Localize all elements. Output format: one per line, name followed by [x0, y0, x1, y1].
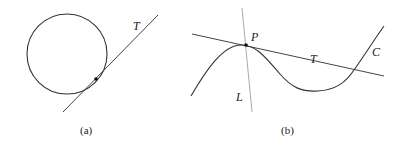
tangent-point-a: [94, 77, 98, 81]
figure-b: P T C L (b): [191, 8, 384, 137]
circle: [27, 14, 107, 94]
label-T-a: T: [133, 19, 141, 33]
figure-canvas: T (a) P T C L (b): [0, 0, 402, 144]
label-L: L: [235, 90, 243, 104]
label-C: C: [372, 45, 381, 59]
curve-C: [191, 26, 384, 96]
figure-a: T (a): [27, 14, 158, 137]
caption-a: (a): [80, 124, 93, 137]
line-L: [242, 8, 252, 112]
label-T-b: T: [310, 52, 318, 66]
caption-b: (b): [281, 124, 294, 137]
label-P: P: [250, 30, 259, 44]
tangent-line-a: [63, 15, 158, 112]
point-P: [244, 43, 248, 47]
